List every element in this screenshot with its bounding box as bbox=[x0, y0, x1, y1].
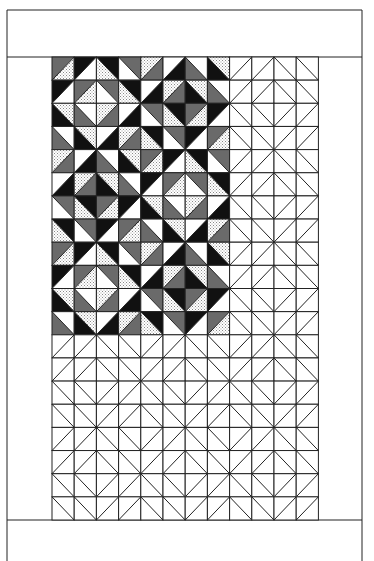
quilt-cell bbox=[296, 381, 318, 404]
quilt-cell bbox=[274, 451, 296, 474]
quilt-cell bbox=[74, 196, 96, 219]
quilt-cell bbox=[274, 57, 296, 80]
quilt-cell bbox=[230, 57, 252, 80]
quilt-cell bbox=[52, 381, 74, 404]
quilt-cell bbox=[185, 404, 207, 427]
quilt-cell bbox=[274, 335, 296, 358]
quilt-diagram bbox=[0, 0, 374, 561]
quilt-cell bbox=[163, 289, 185, 312]
quilt-cell bbox=[163, 126, 185, 149]
quilt-cell bbox=[207, 173, 229, 196]
quilt-cell bbox=[119, 312, 141, 335]
quilt-cell bbox=[52, 427, 74, 450]
quilt-cell bbox=[230, 242, 252, 265]
quilt-cell bbox=[207, 474, 229, 497]
quilt-cell bbox=[207, 335, 229, 358]
quilt-cell bbox=[207, 312, 229, 335]
quilt-cell bbox=[119, 427, 141, 450]
quilt-cell bbox=[74, 474, 96, 497]
quilt-cell bbox=[185, 126, 207, 149]
quilt-cell bbox=[52, 126, 74, 149]
quilt-cell bbox=[163, 451, 185, 474]
quilt-cell bbox=[252, 497, 274, 520]
quilt-cell bbox=[52, 312, 74, 335]
quilt-cell bbox=[230, 196, 252, 219]
quilt-cell bbox=[207, 265, 229, 288]
quilt-cell bbox=[230, 474, 252, 497]
quilt-cell bbox=[52, 358, 74, 381]
quilt-cell bbox=[274, 474, 296, 497]
quilt-cell bbox=[207, 150, 229, 173]
quilt-cell bbox=[207, 103, 229, 126]
quilt-cell bbox=[52, 80, 74, 103]
quilt-cell bbox=[96, 80, 118, 103]
quilt-cell bbox=[96, 126, 118, 149]
quilt-cell bbox=[185, 312, 207, 335]
quilt-cell bbox=[141, 57, 163, 80]
quilt-cell bbox=[185, 196, 207, 219]
quilt-cell bbox=[274, 126, 296, 149]
quilt-cell bbox=[163, 427, 185, 450]
quilt-cell bbox=[119, 173, 141, 196]
quilt-cell bbox=[96, 358, 118, 381]
quilt-cell bbox=[74, 335, 96, 358]
quilt-cell bbox=[141, 173, 163, 196]
quilt-cell bbox=[96, 265, 118, 288]
quilt-cell bbox=[141, 404, 163, 427]
quilt-cell bbox=[52, 289, 74, 312]
quilt-cell bbox=[252, 289, 274, 312]
quilt-cell bbox=[252, 126, 274, 149]
quilt-cell bbox=[230, 80, 252, 103]
quilt-cell bbox=[230, 497, 252, 520]
quilt-cell bbox=[96, 173, 118, 196]
quilt-cell bbox=[207, 358, 229, 381]
quilt-cell bbox=[74, 80, 96, 103]
quilt-cell bbox=[74, 358, 96, 381]
quilt-cell bbox=[119, 196, 141, 219]
quilt-cell bbox=[274, 173, 296, 196]
quilt-cell bbox=[141, 451, 163, 474]
quilt-cell bbox=[296, 150, 318, 173]
quilt-cell bbox=[252, 474, 274, 497]
quilt-cell bbox=[185, 103, 207, 126]
quilt-cell bbox=[96, 497, 118, 520]
quilt-cell bbox=[207, 126, 229, 149]
quilt-cell bbox=[207, 427, 229, 450]
quilt-cell bbox=[74, 497, 96, 520]
quilt-cell bbox=[230, 219, 252, 242]
quilt-cell bbox=[163, 381, 185, 404]
quilt-cell bbox=[274, 103, 296, 126]
quilt-cell bbox=[96, 289, 118, 312]
quilt-cell bbox=[252, 451, 274, 474]
quilt-cell bbox=[274, 427, 296, 450]
quilt-cell bbox=[274, 265, 296, 288]
quilt-cell bbox=[296, 427, 318, 450]
quilt-cell bbox=[207, 451, 229, 474]
quilt-cell bbox=[74, 57, 96, 80]
quilt-cell bbox=[119, 150, 141, 173]
quilt-cell bbox=[296, 57, 318, 80]
quilt-cell bbox=[74, 173, 96, 196]
quilt-cell bbox=[185, 242, 207, 265]
quilt-cell bbox=[141, 474, 163, 497]
quilt-cell bbox=[274, 381, 296, 404]
quilt-cell bbox=[52, 451, 74, 474]
quilt-cell bbox=[119, 126, 141, 149]
quilt-cell bbox=[252, 312, 274, 335]
quilt-cell bbox=[163, 150, 185, 173]
quilt-cell bbox=[185, 80, 207, 103]
quilt-cell bbox=[141, 335, 163, 358]
quilt-cell bbox=[74, 289, 96, 312]
quilt-cell bbox=[119, 381, 141, 404]
quilt-cell bbox=[119, 335, 141, 358]
quilt-cell bbox=[230, 335, 252, 358]
quilt-cell bbox=[119, 80, 141, 103]
quilt-cell bbox=[252, 103, 274, 126]
quilt-cell bbox=[163, 404, 185, 427]
quilt-cell bbox=[74, 451, 96, 474]
quilt-cell bbox=[141, 242, 163, 265]
quilt-cell bbox=[252, 358, 274, 381]
quilt-cell bbox=[52, 265, 74, 288]
quilt-cell bbox=[119, 57, 141, 80]
quilt-cell bbox=[185, 474, 207, 497]
